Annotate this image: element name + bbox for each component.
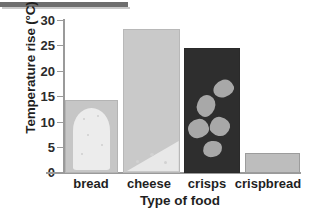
crisp-shape: [193, 92, 218, 119]
crisp-shape: [208, 115, 232, 138]
cheese-wedge-illustration: [127, 141, 179, 171]
y-tick-label-20-wrap: 20: [30, 65, 55, 78]
x-axis-title: Type of food: [55, 193, 305, 208]
y-tick-label-25-wrap: 25: [30, 39, 55, 52]
y-tick-label-5: 5: [33, 141, 55, 154]
bar-cheese[interactable]: [123, 29, 180, 173]
x-tick-label-cheese: cheese: [116, 176, 182, 191]
bar-crispbread[interactable]: [245, 153, 300, 173]
y-tick-label-30-wrap: 30: [30, 14, 55, 27]
x-tick-label-bread: bread: [58, 176, 124, 191]
bar-chart-figure: Temperature rise (°C) 30 25 20 15 10 5 0: [0, 0, 313, 221]
x-tick-label-crispbread: crispbread: [227, 176, 309, 191]
y-tick-label-10: 10: [33, 116, 55, 129]
bar-crisps[interactable]: [184, 48, 240, 173]
y-tick-label-10-wrap: 10: [30, 116, 55, 129]
crisp-shape: [202, 140, 222, 158]
crisp-shape: [187, 118, 210, 140]
y-tick-label-30: 30: [33, 14, 55, 27]
page-top-band-shadow: [2, 7, 130, 9]
y-tick-label-25: 25: [33, 39, 55, 52]
y-tick-label-15-wrap: 15: [30, 90, 55, 103]
y-tick-label-5-wrap: 5: [30, 141, 55, 154]
y-tick-label-15: 15: [33, 90, 55, 103]
bar-bread[interactable]: [65, 100, 118, 173]
bread-slice-illustration: [73, 108, 110, 170]
y-tick-label-20: 20: [33, 65, 55, 78]
crisp-shape: [211, 77, 236, 100]
plot-area: [65, 20, 297, 173]
